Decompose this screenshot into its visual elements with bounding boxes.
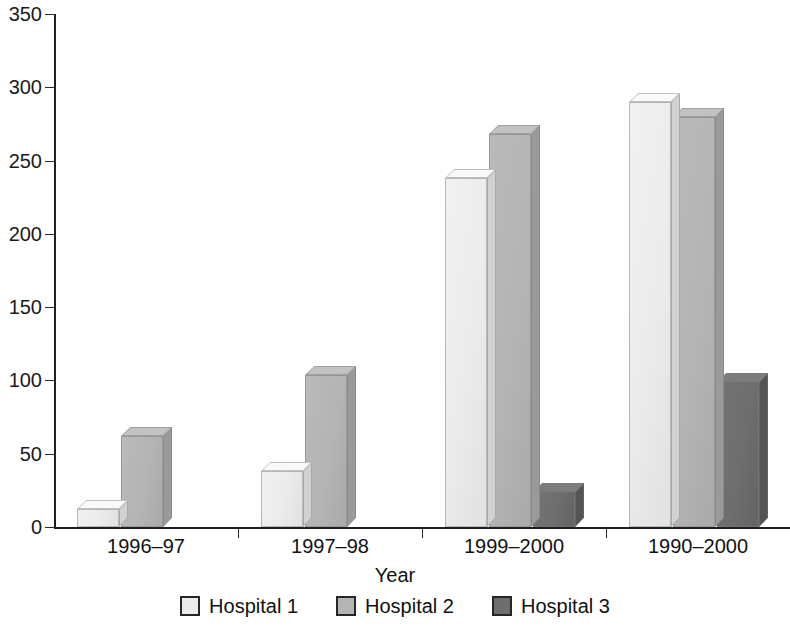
bar-side-face — [487, 169, 496, 527]
legend-swatch-icon — [492, 596, 512, 616]
bar-front-face — [261, 471, 303, 527]
y-axis-tick-label: 0 — [0, 517, 42, 537]
legend-item[interactable]: Hospital 2 — [336, 596, 454, 616]
bar — [261, 471, 303, 527]
legend-swatch-icon — [336, 596, 356, 616]
bar-front-face — [77, 509, 119, 527]
y-axis-tick — [45, 527, 56, 528]
bar-side-face — [671, 93, 680, 527]
x-axis-title: Year — [0, 563, 790, 587]
y-axis-tick-label: 100 — [0, 370, 42, 390]
legend-label: Hospital 1 — [209, 596, 298, 616]
x-axis-tick-label: 1990–2000 — [606, 534, 790, 558]
x-axis-tick-label: 1996–97 — [54, 534, 238, 558]
chart-legend: Hospital 1Hospital 2Hospital 3 — [0, 596, 790, 616]
legend-item[interactable]: Hospital 1 — [180, 596, 298, 616]
y-axis-tick-label: 150 — [0, 297, 42, 317]
legend-label: Hospital 3 — [521, 596, 610, 616]
bar-side-face — [715, 107, 724, 527]
bar-side-face — [163, 427, 172, 527]
legend-swatch-icon — [180, 596, 200, 616]
plot-area — [54, 14, 790, 527]
bar-side-face — [347, 365, 356, 527]
y-axis-tick-label: 200 — [0, 224, 42, 244]
y-axis-tick-label: 350 — [0, 4, 42, 24]
y-axis-tick-label: 50 — [0, 444, 42, 464]
bar-front-face — [445, 178, 487, 527]
bar-side-face — [531, 125, 540, 527]
bar-top-face — [305, 366, 356, 375]
legend-item[interactable]: Hospital 3 — [492, 596, 610, 616]
bar — [629, 102, 671, 527]
bar — [445, 178, 487, 527]
bar-side-face — [303, 462, 312, 527]
bar-side-face — [759, 373, 768, 527]
bar-chart: 050100150200250300350 1996–971997–981999… — [0, 0, 790, 635]
x-axis-tick-label: 1999–2000 — [422, 534, 606, 558]
x-axis-tick-label: 1997–98 — [238, 534, 422, 558]
bar-front-face — [629, 102, 671, 527]
y-axis-tick-label: 300 — [0, 77, 42, 97]
bar-top-face — [673, 108, 724, 117]
bar — [77, 509, 119, 527]
legend-label: Hospital 2 — [365, 596, 454, 616]
y-axis-tick-label: 250 — [0, 151, 42, 171]
